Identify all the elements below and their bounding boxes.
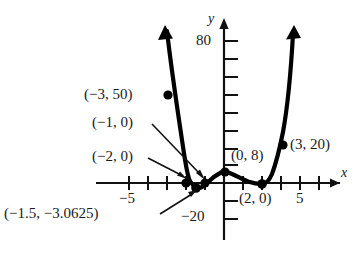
x-tick-label-minus5: −5 xyxy=(119,191,135,206)
point-minus3-50 xyxy=(163,90,172,99)
point-minus2-0 xyxy=(181,178,190,187)
y-axis-label: y xyxy=(208,12,214,26)
annotation-0-8: (0, 8) xyxy=(231,148,264,163)
y-tick-label-minus20: −20 xyxy=(181,209,204,224)
y-axis-arrowhead xyxy=(219,18,228,29)
annotation-2-0: (2, 0) xyxy=(239,191,272,206)
x-axis xyxy=(96,176,340,190)
annotation-minus2-0: (−2, 0) xyxy=(92,149,133,164)
annotation-3-20: (3, 20) xyxy=(290,137,330,152)
annotation-minus3-50: (−3, 50) xyxy=(84,87,132,102)
leader-minus1-0 xyxy=(152,124,200,174)
x-tick-label-5: 5 xyxy=(296,191,304,206)
x-axis-arrowhead xyxy=(330,178,340,187)
point-0-8 xyxy=(220,167,229,176)
polynomial-curve xyxy=(158,25,301,188)
curve-right-arrowhead xyxy=(286,25,301,40)
leader-minus2-0 xyxy=(148,158,181,175)
point-minus1-0 xyxy=(200,178,209,187)
leader-lines xyxy=(148,124,205,214)
graph-figure: y x 80 −20 −5 5 (−3, 50) (−1, 0) (−2, 0)… xyxy=(0,0,359,255)
y-tick-label-80: 80 xyxy=(196,33,211,48)
annotation-minus1-5: (−1.5, −3.0625) xyxy=(4,206,98,221)
curve-left-arrowhead xyxy=(158,25,173,40)
x-axis-label: x xyxy=(341,166,347,180)
y-axis xyxy=(219,18,238,240)
y-axis-ticks xyxy=(224,41,238,219)
point-2-0 xyxy=(257,179,267,189)
point-3-20 xyxy=(278,140,287,149)
annotation-minus1-0: (−1, 0) xyxy=(92,115,133,130)
